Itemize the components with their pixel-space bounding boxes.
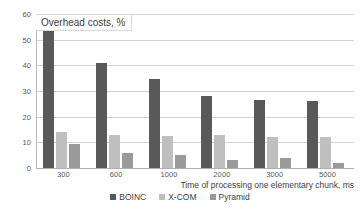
bar — [96, 63, 107, 168]
bar-group — [90, 14, 143, 168]
gridline — [36, 168, 354, 169]
legend-label: BOINC — [119, 192, 146, 202]
y-axis-tick-label: 50 — [22, 35, 31, 44]
bar — [69, 144, 80, 168]
bar — [280, 158, 291, 168]
bar — [333, 163, 344, 168]
bar-group — [143, 14, 196, 168]
bar-group — [301, 14, 354, 168]
y-axis-tick-label: 10 — [22, 138, 31, 147]
bar-group — [37, 14, 90, 168]
legend-item[interactable]: BOINC — [110, 192, 146, 202]
x-axis-tick-label: 300 — [37, 170, 90, 179]
bar — [320, 137, 331, 168]
bar — [214, 135, 225, 168]
x-axis-ticks: 3006001000200030005000 — [37, 170, 354, 179]
bar — [307, 101, 318, 168]
y-axis-tick-label: 20 — [22, 112, 31, 121]
bar-group — [248, 14, 301, 168]
y-axis-tick-label: 30 — [22, 87, 31, 96]
bar — [227, 160, 238, 168]
y-axis-tick-label: 40 — [22, 61, 31, 70]
x-axis-tick-label: 5000 — [301, 170, 354, 179]
x-axis-title: Time of processing one elementary chunk,… — [180, 180, 354, 190]
bar-chart: 0102030405060 3006001000200030005000 Ove… — [0, 0, 360, 209]
legend-item[interactable]: X-COM — [159, 192, 196, 202]
legend-item[interactable]: Pyramid — [210, 192, 250, 202]
bar-group — [195, 14, 248, 168]
x-axis-tick-label: 2000 — [195, 170, 248, 179]
bar — [109, 135, 120, 168]
chart-legend: BOINCX-COMPyramid — [0, 192, 360, 202]
y-axis-tick-label: 0 — [27, 164, 31, 173]
bar — [201, 96, 212, 168]
bar — [254, 100, 265, 168]
legend-label: Pyramid — [219, 192, 250, 202]
legend-label: X-COM — [168, 192, 196, 202]
y-axis-tick-label: 60 — [22, 10, 31, 19]
x-axis-tick-label: 600 — [90, 170, 143, 179]
bar — [149, 79, 160, 168]
x-axis-tick-label: 3000 — [248, 170, 301, 179]
chart-title: Overhead costs, % — [36, 14, 132, 31]
legend-swatch-icon — [110, 194, 116, 200]
x-axis-tick-label: 1000 — [143, 170, 196, 179]
bar — [267, 137, 278, 168]
bar — [162, 136, 173, 168]
legend-swatch-icon — [210, 194, 216, 200]
legend-swatch-icon — [159, 194, 165, 200]
bar — [43, 28, 54, 168]
bar — [175, 155, 186, 168]
bar — [56, 132, 67, 168]
bar-groups — [37, 14, 354, 168]
bar — [122, 153, 133, 168]
